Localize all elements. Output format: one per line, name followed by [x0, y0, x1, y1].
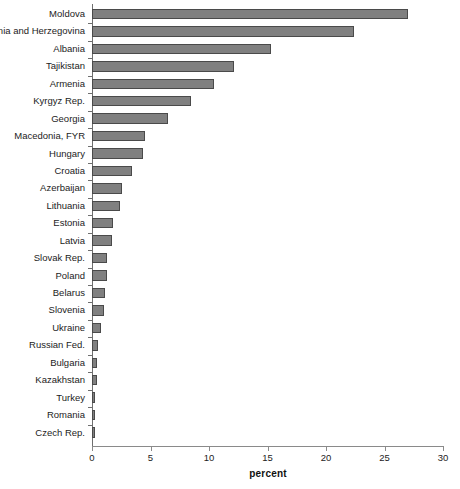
bar — [92, 218, 113, 228]
x-axis-tick-label: 10 — [204, 452, 215, 463]
x-axis-tick-label: 25 — [379, 452, 390, 463]
x-axis-tick-label: 5 — [148, 452, 153, 463]
bar — [92, 375, 97, 385]
bar-row: Moldova — [92, 6, 443, 23]
category-label: Kazakhstan — [35, 371, 85, 388]
bar — [92, 96, 191, 106]
bar-chart: MoldovaBosnia and HerzegovinaAlbaniaTaji… — [0, 0, 460, 489]
x-axis-tick — [326, 447, 327, 451]
x-axis-tick-label: 30 — [438, 452, 449, 463]
bar-row: Macedonia, FYR — [92, 128, 443, 145]
bar — [92, 358, 97, 368]
x-axis-tick — [151, 447, 152, 451]
category-label: Macedonia, FYR — [14, 127, 85, 144]
bar-row: Bosnia and Herzegovina — [92, 23, 443, 40]
x-axis-tick-label: 20 — [321, 452, 332, 463]
bar-rows: MoldovaBosnia and HerzegovinaAlbaniaTaji… — [92, 6, 443, 442]
category-label: Slovenia — [49, 301, 85, 318]
category-label: Albania — [53, 40, 85, 57]
bar-row: Romania — [92, 407, 443, 424]
bar — [92, 270, 107, 280]
bar — [92, 253, 107, 263]
bar — [92, 392, 95, 402]
bar — [92, 61, 234, 71]
category-label: Georgia — [51, 110, 85, 127]
bar-row: Kazakhstan — [92, 372, 443, 389]
x-axis-tick — [268, 447, 269, 451]
bar-row: Poland — [92, 268, 443, 285]
bar — [92, 9, 408, 19]
x-axis-title: percent — [92, 468, 444, 479]
bar-row: Latvia — [92, 233, 443, 250]
bar-row: Georgia — [92, 111, 443, 128]
category-label: Slovak Rep. — [34, 249, 85, 266]
bar-row: Turkey — [92, 390, 443, 407]
bar-row: Slovak Rep. — [92, 250, 443, 267]
category-label: Latvia — [60, 232, 85, 249]
bar-row: Belarus — [92, 285, 443, 302]
category-label: Lithuania — [46, 197, 85, 214]
bar — [92, 410, 95, 420]
x-axis-tick — [385, 447, 386, 451]
category-label: Russian Fed. — [29, 336, 85, 353]
category-label: Poland — [55, 267, 85, 284]
bar-row: Ukraine — [92, 320, 443, 337]
bar-row: Estonia — [92, 215, 443, 232]
bar — [92, 44, 271, 54]
bar — [92, 201, 120, 211]
x-axis-tick — [443, 447, 444, 451]
category-label: Bosnia and Herzegovina — [0, 22, 85, 39]
bar-row: Armenia — [92, 76, 443, 93]
category-label: Kyrgyz Rep. — [33, 92, 85, 109]
bar — [92, 340, 98, 350]
category-label: Belarus — [53, 284, 85, 301]
category-label: Moldova — [49, 5, 85, 22]
category-label: Armenia — [50, 75, 85, 92]
category-label: Turkey — [56, 389, 85, 406]
bar — [92, 235, 112, 245]
bar-row: Azerbaijan — [92, 180, 443, 197]
bar-row: Slovenia — [92, 302, 443, 319]
x-axis-tick-label: 0 — [89, 452, 94, 463]
bar — [92, 131, 145, 141]
bar — [92, 148, 143, 158]
bar — [92, 79, 214, 89]
bar — [92, 183, 122, 193]
bar-row: Lithuania — [92, 198, 443, 215]
category-label: Croatia — [54, 162, 85, 179]
category-label: Estonia — [53, 214, 85, 231]
category-label: Tajikistan — [46, 57, 85, 74]
category-label: Bulgaria — [50, 354, 85, 371]
bar-row: Czech Rep. — [92, 425, 443, 442]
bar — [92, 323, 101, 333]
plot-area: MoldovaBosnia and HerzegovinaAlbaniaTaji… — [92, 6, 443, 442]
bar — [92, 427, 95, 437]
bar-row: Hungary — [92, 146, 443, 163]
category-label: Azerbaijan — [40, 179, 85, 196]
bar — [92, 26, 354, 36]
bar — [92, 288, 105, 298]
bar-row: Albania — [92, 41, 443, 58]
bar-row: Croatia — [92, 163, 443, 180]
bar-row: Tajikistan — [92, 58, 443, 75]
x-axis-tick — [92, 447, 93, 451]
bar-row: Russian Fed. — [92, 337, 443, 354]
bar-row: Kyrgyz Rep. — [92, 93, 443, 110]
bar — [92, 305, 104, 315]
bar — [92, 113, 168, 123]
x-axis-tick-label: 15 — [262, 452, 273, 463]
bar — [92, 166, 132, 176]
x-axis-tick — [209, 447, 210, 451]
category-label: Romania — [47, 406, 85, 423]
bar-row: Bulgaria — [92, 355, 443, 372]
category-label: Ukraine — [52, 319, 85, 336]
category-label: Hungary — [49, 145, 85, 162]
category-label: Czech Rep. — [35, 424, 85, 441]
